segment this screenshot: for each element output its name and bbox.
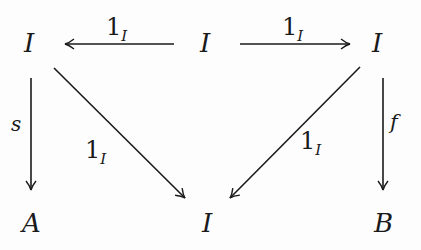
label-sub: I [315,141,321,159]
node-top-center: I [200,30,210,56]
label-main: f [390,110,398,134]
node-top-right: I [372,30,382,56]
node-top-left: I [24,30,34,56]
arrow-tr-to-bc [230,67,360,198]
node-bottom-left: A [22,210,41,236]
label-sub: I [100,150,106,168]
label-sub: I [121,27,127,45]
label-tl-to-bc: 1I [85,138,106,162]
label-main: s [11,112,21,136]
label-tc-to-tr: 1I [282,15,303,39]
label-sub: I [297,27,303,45]
label-main: 1 [106,13,121,41]
arrow-tl-to-bc [54,68,185,198]
node-bottom-right: B [374,210,393,236]
label-tr-to-bc: 1I [300,129,321,153]
label-tl-to-bl: s [11,114,21,134]
label-tr-to-br: f [390,112,398,133]
label-main: 1 [300,127,315,155]
node-bottom-center: I [202,210,212,236]
label-main: 1 [282,13,297,41]
label-main: 1 [85,136,100,164]
label-tc-to-tl: 1I [106,15,127,39]
